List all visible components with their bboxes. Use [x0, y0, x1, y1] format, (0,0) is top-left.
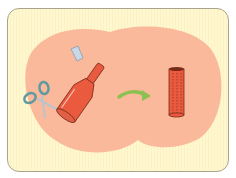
illustration — [0, 0, 236, 178]
background-blob — [25, 27, 221, 153]
cut-cylinder — [169, 67, 184, 117]
